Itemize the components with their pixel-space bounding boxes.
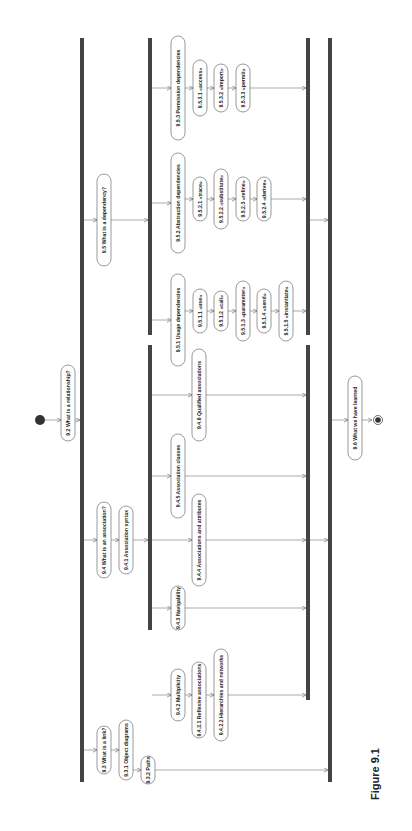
activity-node-n952: 9.5.2 Abstraction dependencies bbox=[171, 153, 185, 253]
node-label: 9.4.2.1 Reflexive associations bbox=[196, 663, 202, 736]
activity-node-n9515: 9.5.1.5 «instantiate» bbox=[279, 281, 293, 341]
node-label: 9.4.2 Multiplicity bbox=[175, 675, 181, 715]
node-label: 9.5.1.1 «use» bbox=[197, 295, 203, 327]
activity-diagram: 9.2 What is a relationship?9.3 What is a… bbox=[0, 0, 412, 831]
node-label: 9.4.1 Association syntax bbox=[123, 510, 129, 570]
node-label: 9.5.2.2 «substitute» bbox=[218, 175, 224, 223]
join-bar-dependency bbox=[306, 38, 310, 335]
join-bar-association bbox=[306, 345, 310, 700]
activity-node-n9522: 9.5.2.2 «substitute» bbox=[214, 169, 228, 229]
activity-node-n951: 9.5.1 Usage dependencies bbox=[171, 274, 185, 366]
node-label: 9.5.3.2 «import» bbox=[218, 68, 224, 107]
node-label: 9.2 What is a relationship? bbox=[65, 370, 71, 435]
node-label: 9.4.3 Navigability bbox=[175, 587, 181, 629]
initial-state-icon bbox=[35, 415, 45, 425]
node-label: 9.5.1.4 «send» bbox=[261, 293, 267, 328]
node-label: 9.4.4 Associations and attributes bbox=[196, 499, 202, 580]
figure-caption: Figure 9.1 bbox=[369, 748, 381, 800]
node-label: 9.5.1 Usage dependencies bbox=[175, 288, 181, 353]
activity-node-n942: 9.4.2 Multiplicity bbox=[171, 669, 185, 721]
activity-node-n9533: 9.5.3.3 «permit» bbox=[236, 64, 250, 112]
activity-node-n9532: 9.5.3.2 «import» bbox=[214, 64, 228, 112]
fork-bar-main bbox=[80, 38, 84, 782]
node-label: 9.4.2.2 Hierarchies and networks bbox=[218, 655, 224, 736]
node-label: 9.5.2.4 «derive» bbox=[261, 180, 267, 218]
activity-node-n96: 9.6 What we have learned bbox=[348, 376, 362, 460]
node-label: 9.5 What is a dependency? bbox=[101, 187, 107, 253]
node-label: 9.4.5 Association classes bbox=[175, 445, 181, 507]
activity-node-n931: 9.3.1 Object diagrams bbox=[119, 720, 133, 780]
edges bbox=[45, 88, 372, 770]
activity-node-n941: 9.4.1 Association syntax bbox=[119, 506, 133, 574]
node-label: 9.6 What we have learned bbox=[352, 387, 358, 450]
activity-node-n943: 9.4.3 Navigability bbox=[171, 586, 185, 630]
node-label: 9.3.2 Paths bbox=[145, 756, 151, 783]
activity-node-n92: 9.2 What is a relationship? bbox=[61, 365, 75, 441]
activity-node-n946: 9.4.6 Qualified associations bbox=[192, 349, 206, 441]
activity-node-n9422: 9.4.2.2 Hierarchies and networks bbox=[214, 649, 228, 741]
activity-node-n94: 9.4 What is an association? bbox=[97, 502, 111, 578]
activity-node-n953: 9.5.3 Permission dependencies bbox=[171, 36, 185, 140]
activity-node-n9523: 9.5.2.3 «refine» bbox=[236, 177, 250, 221]
node-label: 9.4 What is an association? bbox=[101, 506, 107, 574]
fork-bar-association bbox=[148, 345, 152, 630]
node-label: 9.3 What is a link? bbox=[101, 728, 107, 773]
node-label: 9.5.1.2 «call» bbox=[218, 295, 224, 327]
node-label: 9.3.1 Object diagrams bbox=[123, 723, 129, 777]
activity-node-n9421: 9.4.2.1 Reflexive associations bbox=[192, 662, 206, 738]
node-label: 9.5.3 Permission dependencies bbox=[175, 49, 181, 126]
activity-node-n9514: 9.5.1.4 «send» bbox=[257, 289, 271, 333]
node-label: 9.5.1.3 «parameter» bbox=[240, 287, 246, 335]
activity-node-n945: 9.4.5 Association classes bbox=[171, 434, 185, 518]
activity-node-n9531: 9.5.3.1 «access» bbox=[193, 60, 207, 116]
node-label: 9.5.3.3 «permit» bbox=[240, 68, 246, 107]
activity-node-n932: 9.3.2 Paths bbox=[141, 756, 155, 784]
activity-node-n9511: 9.5.1.1 «use» bbox=[193, 289, 207, 333]
activity-node-n9524: 9.5.2.4 «derive» bbox=[257, 177, 271, 221]
activity-node-n944: 9.4.4 Associations and attributes bbox=[192, 494, 206, 586]
node-label: 9.5.2.3 «refine» bbox=[240, 180, 246, 217]
activity-node-n9513: 9.5.1.3 «parameter» bbox=[236, 281, 250, 341]
node-label: 9.5.2.1 «trace» bbox=[197, 181, 203, 217]
join-bar-main bbox=[328, 38, 332, 782]
node-label: 9.5.1.5 «instantiate» bbox=[283, 286, 289, 335]
fork-bar-dependency bbox=[148, 38, 152, 335]
node-label: 9.4.6 Qualified associations bbox=[196, 361, 202, 429]
activity-node-n95: 9.5 What is a dependency? bbox=[97, 174, 111, 266]
activity-node-n9512: 9.5.1.2 «call» bbox=[214, 291, 228, 331]
activity-node-n9521: 9.5.2.1 «trace» bbox=[193, 177, 207, 221]
final-state-dot bbox=[375, 417, 381, 423]
node-label: 9.5.3.1 «access» bbox=[197, 68, 203, 109]
activity-node-n93: 9.3 What is a link? bbox=[97, 726, 111, 774]
node-label: 9.5.2 Abstraction dependencies bbox=[175, 164, 181, 242]
